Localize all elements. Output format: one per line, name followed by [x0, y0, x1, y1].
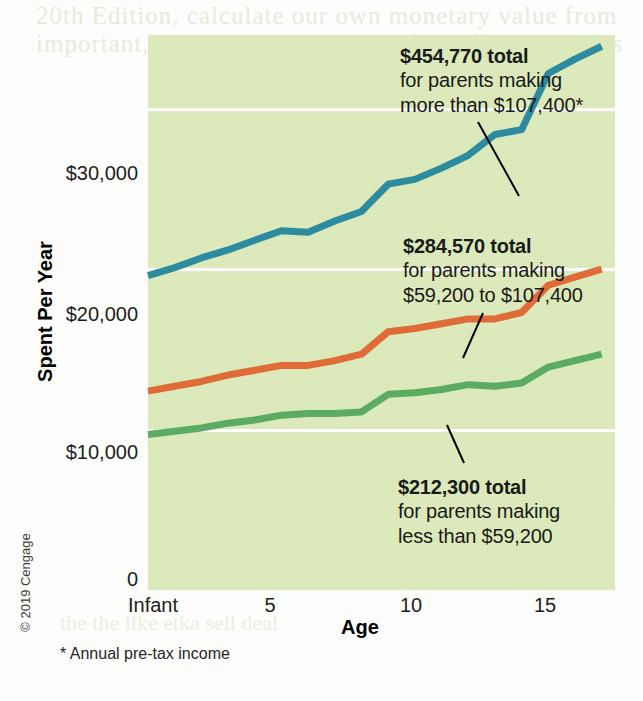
annotation-mid-line2: for parents making	[403, 258, 583, 282]
y-tick-label-0: 0	[20, 568, 138, 591]
annotation-low-income: $212,300 total for parents making less t…	[398, 475, 560, 548]
annotation-high-income: $454,770 total for parents making more t…	[400, 44, 583, 117]
x-tick-label-10: 10	[391, 594, 431, 617]
annotation-mid-line3: $59,200 to $107,400	[403, 283, 583, 307]
footnote-annual-pretax-income: * Annual pre-tax income	[60, 645, 230, 663]
annotation-mid-income: $284,570 total for parents making $59,20…	[403, 234, 583, 307]
y-tick-label-30000: $30,000	[20, 162, 138, 185]
x-tick-label-5: 5	[250, 594, 290, 617]
y-tick-label-10000: $10,000	[20, 441, 138, 464]
annotation-mid-headline: $284,570 total	[403, 234, 583, 258]
annotation-high-line2: for parents making	[400, 68, 583, 92]
annotation-low-line2: for parents making	[398, 499, 560, 523]
y-axis-title: Spent Per Year	[34, 217, 57, 407]
annotation-high-line3: more than $107,400*	[400, 93, 583, 117]
x-axis-title: Age	[300, 616, 420, 639]
x-tick-label-15: 15	[525, 594, 565, 617]
annotation-high-headline: $454,770 total	[400, 44, 583, 68]
x-tick-label-infant: Infant	[108, 594, 198, 617]
page-bleedthrough-text-top-1: 20th Edition, calculate our own monetary…	[36, 2, 617, 30]
figure-container: 20th Edition, calculate our own monetary…	[0, 0, 643, 701]
annotation-low-line3: less than $59,200	[398, 524, 560, 548]
annotation-low-headline: $212,300 total	[398, 475, 560, 499]
copyright-notice: © 2019 Cengage	[18, 528, 33, 638]
gridline-10000	[148, 429, 615, 432]
